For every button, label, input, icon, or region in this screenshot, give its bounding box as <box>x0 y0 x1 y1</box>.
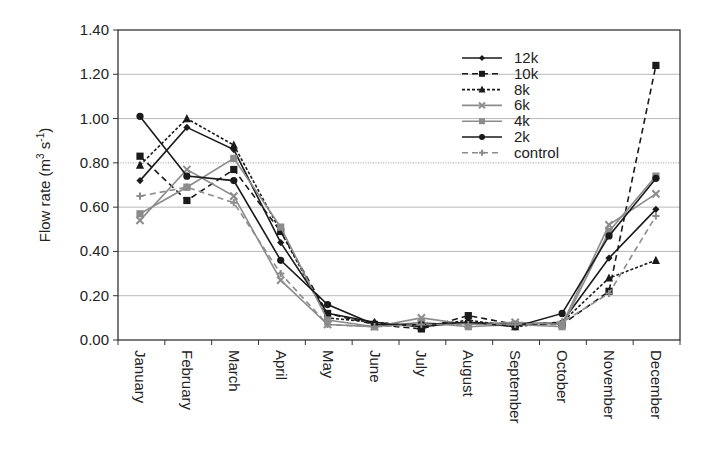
data-point-marker <box>277 223 284 230</box>
flow-rate-line-chart: 0.000.200.400.600.801.001.201.40 January… <box>0 0 708 458</box>
y-tick-label: 0.80 <box>80 154 109 171</box>
legend-label: 10k <box>514 65 539 82</box>
x-tick-label: September <box>507 350 524 423</box>
x-tick-label: January <box>132 350 149 404</box>
series-line <box>140 158 656 326</box>
series-line <box>140 127 656 326</box>
legend-label: 8k <box>514 81 530 98</box>
series-4k <box>136 155 659 330</box>
data-point-marker <box>324 301 331 308</box>
x-tick-label: April <box>273 350 290 380</box>
x-axis: JanuaryFebruaryMarchAprilMayJuneJulyAugu… <box>118 340 680 423</box>
legend-item-4k: 4k <box>462 112 530 129</box>
legend-label: 4k <box>514 112 530 129</box>
data-point-marker <box>136 210 143 217</box>
y-tick-label: 0.00 <box>80 331 109 348</box>
series-6k <box>136 166 659 330</box>
data-point-marker <box>136 192 143 199</box>
legend-label: 12k <box>514 49 539 66</box>
y-axis-title: Flow rate (m3 s-1) <box>35 128 53 242</box>
data-point-marker <box>277 257 284 264</box>
data-point-marker <box>136 217 143 224</box>
series-8k <box>136 114 660 330</box>
legend: 12k10k8k6k4k2kcontrol <box>462 49 559 161</box>
y-tick-label: 1.20 <box>80 65 109 82</box>
legend-item-8k: 8k <box>462 81 530 98</box>
data-point-marker <box>230 192 237 199</box>
legend-label: control <box>514 144 559 161</box>
data-point-marker <box>652 175 659 182</box>
legend-label: 2k <box>514 128 530 145</box>
legend-label: 6k <box>514 96 530 113</box>
legend-marker <box>479 71 485 77</box>
x-tick-label: November <box>601 350 618 419</box>
legend-item-10k: 10k <box>462 65 539 82</box>
legend-item-6k: 6k <box>462 96 530 113</box>
data-point-marker <box>230 177 237 184</box>
plot-area-frame <box>118 30 680 340</box>
x-tick-label: July <box>413 350 430 377</box>
legend-item-2k: 2k <box>462 128 530 145</box>
data-point-marker <box>277 277 284 284</box>
y-tick-label: 1.00 <box>80 110 109 127</box>
data-point-marker <box>652 190 659 197</box>
data-point-marker <box>230 155 237 162</box>
legend-marker <box>479 134 485 140</box>
y-tick-label: 0.20 <box>80 287 109 304</box>
data-point-marker <box>652 256 660 264</box>
data-point-marker <box>605 232 612 239</box>
y-tick-label: 0.60 <box>80 198 109 215</box>
legend-item-12k: 12k <box>462 49 539 66</box>
data-point-marker <box>652 212 659 219</box>
x-tick-label: December <box>648 350 665 419</box>
data-series <box>136 62 660 333</box>
legend-item-control: control <box>462 144 559 161</box>
series-line <box>140 170 656 327</box>
series-10k <box>136 62 659 333</box>
data-point-marker <box>136 153 143 160</box>
data-point-marker <box>559 310 566 317</box>
data-point-marker <box>230 166 237 173</box>
legend-marker <box>479 55 485 61</box>
data-point-marker <box>183 173 190 180</box>
y-axis: 0.000.200.400.600.801.001.201.40 <box>80 21 118 348</box>
x-tick-label: June <box>367 350 384 383</box>
gridlines <box>118 74 680 295</box>
x-tick-label: August <box>460 350 477 398</box>
data-point-marker <box>183 197 190 204</box>
x-tick-label: March <box>226 350 243 392</box>
data-point-marker <box>652 62 659 69</box>
series-control <box>136 184 659 331</box>
x-tick-label: May <box>320 350 337 379</box>
data-point-marker <box>136 113 143 120</box>
x-tick-label: October <box>554 350 571 403</box>
x-tick-label: February <box>179 350 196 411</box>
y-tick-label: 0.40 <box>80 242 109 259</box>
legend-marker <box>479 118 485 124</box>
data-point-marker <box>230 141 238 149</box>
series-12k <box>136 124 659 330</box>
y-tick-label: 1.40 <box>80 21 109 38</box>
data-point-marker <box>136 160 144 168</box>
legend-marker <box>479 150 485 156</box>
